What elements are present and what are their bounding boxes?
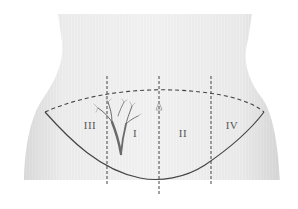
region-label-iv: IV: [226, 119, 239, 131]
torso-illustration: [0, 0, 298, 209]
region-label-i: I: [133, 127, 137, 139]
region-label-iii: III: [84, 119, 97, 131]
region-label-ii: II: [179, 127, 187, 139]
abdomen-diagram: III I II IV: [0, 0, 298, 209]
